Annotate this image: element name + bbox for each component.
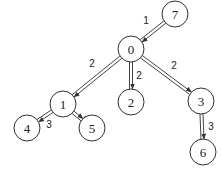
node-0: 0 [118, 36, 144, 62]
node-5: 5 [79, 115, 105, 141]
edge-weight-label: 2 [136, 70, 142, 81]
node-6: 6 [190, 139, 216, 165]
edge-3-6 [200, 114, 204, 139]
svg-text:6: 6 [200, 145, 207, 160]
svg-text:0: 0 [128, 42, 135, 57]
node-7: 7 [162, 1, 188, 27]
edge-weight-label: 3 [208, 121, 214, 132]
svg-text:5: 5 [89, 121, 96, 136]
edge-0-1 [72, 56, 122, 97]
svg-text:2: 2 [128, 95, 135, 110]
edge-0-3 [141, 56, 192, 95]
edge-weight-label: 2 [89, 58, 95, 69]
svg-text:7: 7 [172, 7, 179, 22]
edge-weight-label: 3 [46, 119, 52, 130]
edge-0-2 [130, 62, 133, 89]
edge-weight-label: 2 [171, 60, 177, 71]
node-2: 2 [118, 89, 144, 115]
node-4: 4 [14, 115, 40, 141]
edge-weight-label: 1 [143, 15, 149, 26]
edge-1-5 [72, 111, 83, 121]
tree-svg: 1222333 70123456 [0, 0, 221, 172]
tree-diagram: 1222333 70123456 [0, 0, 221, 172]
svg-text:4: 4 [24, 121, 31, 136]
node-3: 3 [188, 88, 214, 114]
node-1: 1 [50, 91, 76, 117]
svg-text:3: 3 [198, 94, 205, 109]
svg-text:1: 1 [60, 97, 67, 112]
